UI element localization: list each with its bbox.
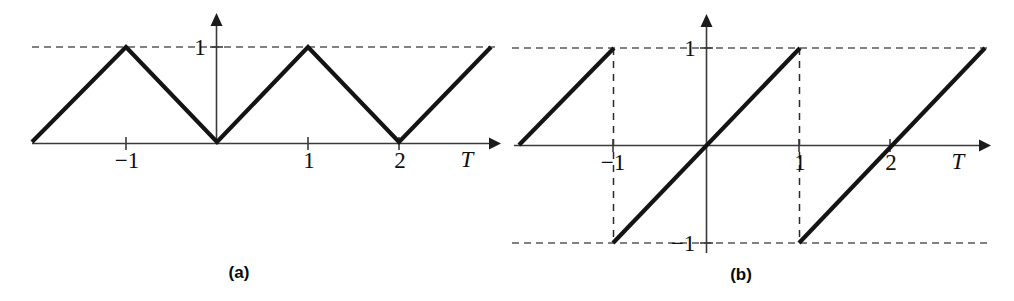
panel-a-xtick-label-1: 1 — [303, 148, 315, 173]
panel-a-xtick-label-2: 2 — [394, 148, 406, 173]
panel-b-group: −1 1 2 1 −1 T (b) — [512, 14, 991, 284]
panel-b-waveform-segment-1 — [519, 48, 614, 145]
panel-a-y-axis-arrowhead — [211, 13, 223, 26]
panel-b-xtick-label-2: 2 — [885, 150, 897, 175]
panel-a-xtick-label--1: −1 — [115, 148, 139, 173]
panel-b-x-axis-arrowhead — [979, 140, 991, 152]
panel-b-xtick-label--1: −1 — [601, 150, 625, 175]
figure-container: −1 1 2 1 T (a) — [0, 0, 1014, 301]
panel-b-xtick-label-1: 1 — [794, 150, 806, 175]
panel-b-ytick-label-1: 1 — [684, 36, 696, 61]
panel-a-caption: (a) — [229, 263, 250, 282]
panel-b-y-axis-arrowhead — [701, 14, 713, 27]
panel-b-ytick-label--1: −1 — [671, 231, 695, 256]
panel-b-axis-label-T: T — [952, 149, 967, 174]
panel-a-waveform — [32, 47, 491, 142]
figure-svg: −1 1 2 1 T (a) — [0, 0, 1014, 301]
panel-a-x-axis-arrowhead — [489, 138, 501, 150]
panel-a-group: −1 1 2 1 T (a) — [32, 13, 501, 282]
panel-b-caption: (b) — [730, 265, 752, 284]
panel-a-axis-label-T: T — [461, 147, 476, 172]
panel-a-ytick-label-1: 1 — [194, 35, 206, 60]
